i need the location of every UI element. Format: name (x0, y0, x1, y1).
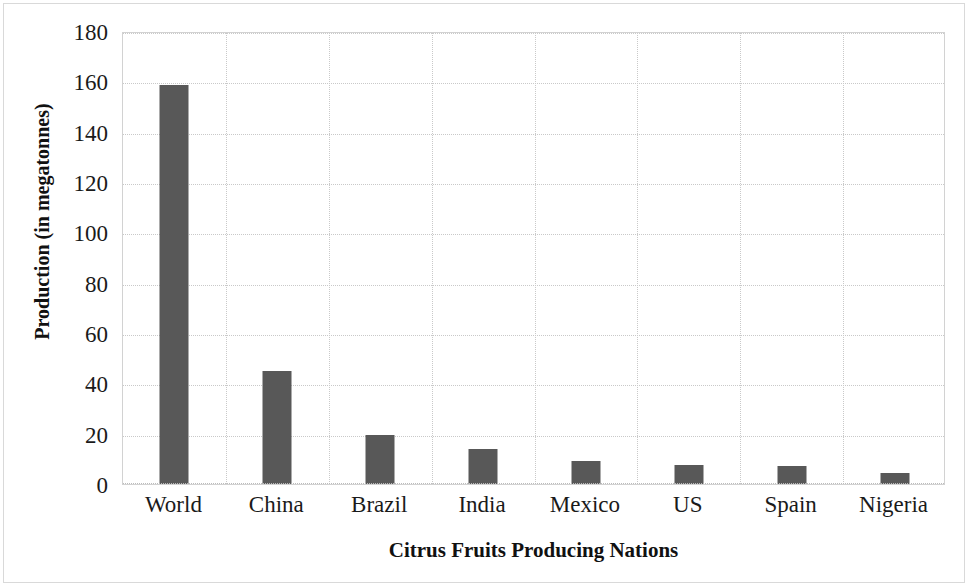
x-tick-label-china: China (225, 492, 328, 517)
y-tick-label: 60 (44, 323, 108, 346)
bar-chart-figure: Production (in megatonnes) 1801601401201… (0, 0, 969, 587)
bar-slot (740, 33, 843, 484)
bar-spain[interactable] (777, 466, 806, 484)
y-tick-label: 140 (44, 121, 108, 144)
y-tick-label: 80 (44, 272, 108, 295)
bar-slot (432, 33, 535, 484)
x-tick-label-spain: Spain (739, 492, 842, 517)
bar-world[interactable] (160, 85, 189, 484)
bars-layer (123, 33, 944, 484)
bar-slot (123, 33, 226, 484)
bar-us[interactable] (674, 465, 703, 484)
bar-slot (535, 33, 638, 484)
plot-area (122, 32, 945, 485)
bar-mexico[interactable] (571, 461, 600, 484)
x-axis-baseline (123, 483, 944, 484)
bar-brazil[interactable] (366, 435, 395, 484)
y-tick-label: 40 (44, 373, 108, 396)
y-tick-label: 120 (44, 172, 108, 195)
x-tick-label-mexico: Mexico (534, 492, 637, 517)
y-tick-label: 100 (44, 222, 108, 245)
bar-india[interactable] (469, 449, 498, 484)
x-axis-title: Citrus Fruits Producing Nations (122, 538, 945, 563)
x-tick-label-nigeria: Nigeria (842, 492, 945, 517)
bar-slot (843, 33, 946, 484)
x-axis-tick-labels: WorldChinaBrazilIndiaMexicoUSSpainNigeri… (122, 492, 945, 526)
bar-slot (637, 33, 740, 484)
y-tick-label: 160 (44, 71, 108, 94)
x-tick-label-india: India (431, 492, 534, 517)
y-tick-label: 180 (44, 21, 108, 44)
bar-slot (226, 33, 329, 484)
x-tick-label-brazil: Brazil (328, 492, 431, 517)
y-tick-label: 0 (44, 474, 108, 497)
bar-slot (329, 33, 432, 484)
x-tick-label-world: World (122, 492, 225, 517)
y-axis-tick-labels: 180160140120100806040200 (36, 32, 108, 485)
bar-china[interactable] (263, 371, 292, 484)
y-tick-label: 20 (44, 423, 108, 446)
x-tick-label-us: US (636, 492, 739, 517)
